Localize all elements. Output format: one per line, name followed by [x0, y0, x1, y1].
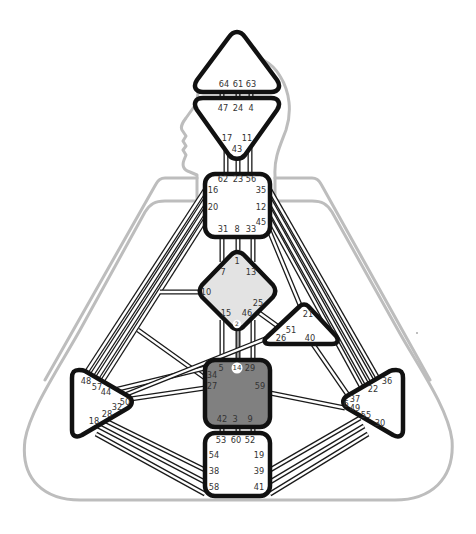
gate-39: 39	[254, 466, 264, 476]
gate-55: 55	[361, 410, 371, 420]
gate-8: 8	[234, 224, 239, 234]
gate-49: 49	[350, 403, 360, 413]
gate-64: 64	[219, 79, 229, 89]
gate-34: 34	[207, 370, 217, 380]
gate-33: 33	[246, 224, 256, 234]
gate-29: 29	[245, 363, 255, 373]
gate-4: 4	[248, 103, 253, 113]
gate-23: 23	[233, 174, 243, 184]
gate-5: 5	[218, 363, 223, 373]
gate-31: 31	[218, 224, 228, 234]
gate-13: 13	[246, 267, 256, 277]
gate-47: 47	[218, 103, 228, 113]
gate-58: 58	[209, 482, 219, 492]
gate-2: 2	[235, 320, 239, 327]
gate-28: 28	[102, 409, 112, 419]
gate-17: 17	[222, 133, 232, 143]
gate-24: 24	[233, 103, 243, 113]
gate-7: 7	[220, 267, 225, 277]
gate-41: 41	[254, 482, 264, 492]
gate-62: 62	[218, 174, 228, 184]
gate-3: 3	[232, 414, 237, 424]
gate-25: 25	[253, 298, 263, 308]
gate-30: 30	[375, 418, 385, 428]
gate-10: 10	[201, 287, 211, 297]
gate-18: 18	[89, 416, 99, 426]
gate-48: 48	[81, 376, 91, 386]
gate-53: 53	[216, 435, 226, 445]
gate-14: 14	[233, 364, 242, 372]
gate-61: 61	[233, 79, 243, 89]
gate-40: 40	[305, 333, 315, 343]
gate-9: 9	[247, 414, 252, 424]
gate-56: 56	[246, 174, 256, 184]
gate-36: 36	[382, 376, 392, 386]
gate-19: 19	[254, 450, 264, 460]
head-gates: 64 61 63	[219, 79, 256, 89]
gate-11: 11	[242, 133, 252, 143]
gate-43: 43	[232, 144, 242, 154]
gate-27: 27	[207, 381, 217, 391]
gate-20: 20	[208, 202, 218, 212]
gate-45: 45	[256, 217, 266, 227]
gate-46: 46	[242, 308, 252, 318]
gate-63: 63	[246, 79, 256, 89]
gate-16: 16	[208, 185, 218, 195]
gate-54: 54	[209, 450, 219, 460]
gate-21: 21	[303, 309, 313, 319]
gate-26: 26	[276, 333, 286, 343]
gate-15: 15	[221, 308, 231, 318]
gate-32: 32	[112, 402, 122, 412]
gate-51: 51	[286, 325, 296, 335]
gate-38: 38	[209, 466, 219, 476]
bodygraph-chart: 64 61 63 47 24 4 17 11 43 62 23 56 16 35…	[0, 0, 476, 534]
gate-35: 35	[256, 185, 266, 195]
gate-59: 59	[255, 381, 265, 391]
gate-12: 12	[256, 202, 266, 212]
gate-60: 60	[231, 435, 241, 445]
gate-1: 1	[234, 256, 239, 266]
gate-6: 6	[343, 399, 348, 409]
stray-dot	[416, 332, 418, 334]
gate-42: 42	[217, 414, 227, 424]
gate-44: 44	[101, 387, 111, 397]
gate-52: 52	[245, 435, 255, 445]
gate-22: 22	[368, 384, 378, 394]
